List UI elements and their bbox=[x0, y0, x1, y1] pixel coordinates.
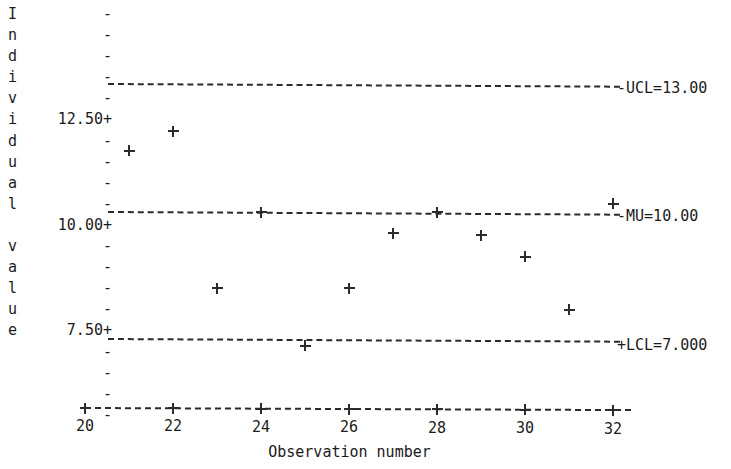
data-point bbox=[124, 145, 135, 156]
data-point bbox=[168, 126, 179, 137]
x-axis-tick bbox=[256, 403, 267, 414]
data-point bbox=[432, 207, 443, 218]
control-limit-label-mu: -MU=10.00 bbox=[617, 208, 698, 224]
x-axis-tick-label: 28 bbox=[415, 420, 459, 437]
y-axis-title-char: n bbox=[8, 25, 26, 46]
data-point bbox=[608, 198, 619, 209]
y-axis-minor-tick: - bbox=[30, 299, 112, 320]
y-axis-minor-tick: - bbox=[30, 363, 112, 384]
y-axis-major-tick: 10.00+ bbox=[30, 215, 112, 236]
x-axis-tick bbox=[168, 403, 179, 414]
data-point bbox=[388, 228, 399, 239]
y-axis-minor-tick: - bbox=[30, 25, 112, 46]
x-axis-tick-label: 32 bbox=[591, 421, 635, 438]
data-point bbox=[300, 340, 311, 351]
y-axis-minor-tick: - bbox=[30, 257, 112, 278]
y-axis-title-char: u bbox=[8, 152, 26, 173]
y-axis-title-char bbox=[8, 215, 26, 236]
y-axis-title-char: u bbox=[8, 299, 26, 320]
data-point bbox=[256, 207, 267, 218]
data-point bbox=[344, 283, 355, 294]
y-axis-minor-tick: - bbox=[30, 384, 112, 405]
y-axis-minor-tick: - bbox=[30, 173, 112, 194]
y-axis-minor-tick: - bbox=[30, 4, 112, 25]
data-point bbox=[520, 251, 531, 262]
y-axis-minor-tick: - bbox=[30, 342, 112, 363]
y-axis-title-char: i bbox=[8, 67, 26, 88]
y-axis-minor-tick: - bbox=[30, 67, 112, 88]
y-axis-minor-tick: - bbox=[30, 194, 112, 215]
y-axis-title: Individual value bbox=[8, 4, 26, 342]
y-axis-minor-tick: - bbox=[30, 236, 112, 257]
y-axis-title-char: a bbox=[8, 257, 26, 278]
control-limit-line-mu bbox=[108, 211, 620, 218]
y-axis-title-char: v bbox=[8, 88, 26, 109]
x-axis-tick-label: 22 bbox=[151, 418, 195, 435]
y-axis-minor-tick: - bbox=[30, 131, 112, 152]
control-limit-label-ucl: -UCL=13.00 bbox=[617, 80, 707, 96]
control-limit-label-lcl: +LCL=7.000 bbox=[617, 337, 707, 353]
y-axis-title-char: l bbox=[8, 278, 26, 299]
y-axis-minor-tick: - bbox=[30, 46, 112, 67]
y-axis-title-char: e bbox=[8, 320, 26, 341]
data-point bbox=[212, 283, 223, 294]
x-axis-tick bbox=[432, 404, 443, 415]
y-axis-title-char: i bbox=[8, 109, 26, 130]
y-axis-title-char: d bbox=[8, 46, 26, 67]
x-axis-tick bbox=[344, 404, 355, 415]
y-axis-title-char: d bbox=[8, 131, 26, 152]
x-axis-tick-label: 24 bbox=[239, 419, 283, 436]
y-axis-major-tick: 7.50+ bbox=[30, 320, 112, 341]
x-axis-line bbox=[85, 407, 631, 413]
y-axis-major-tick: 12.50+ bbox=[30, 109, 112, 130]
y-axis-minor-tick: - bbox=[30, 88, 112, 109]
y-axis-title-char: v bbox=[8, 236, 26, 257]
y-axis-minor-tick: - bbox=[30, 405, 112, 426]
x-axis-tick-label: 26 bbox=[327, 419, 371, 436]
x-axis-title: Observation number bbox=[0, 444, 715, 461]
y-axis-title-char: a bbox=[8, 173, 26, 194]
data-point bbox=[476, 230, 487, 241]
x-axis-tick bbox=[608, 405, 619, 416]
data-point bbox=[564, 304, 575, 315]
y-axis-tick-column: -----12.50+----10.00+----7.50+---- bbox=[30, 4, 112, 426]
y-axis-title-char: l bbox=[8, 194, 26, 215]
y-axis-minor-tick: - bbox=[30, 152, 112, 173]
x-axis-tick bbox=[520, 404, 531, 415]
y-axis-minor-tick: - bbox=[30, 278, 112, 299]
control-limit-line-lcl bbox=[108, 338, 620, 345]
individuals-control-chart: Individual value -----12.50+----10.00+--… bbox=[0, 0, 731, 469]
y-axis-title-char: I bbox=[8, 4, 26, 25]
control-limit-line-ucl bbox=[108, 83, 620, 90]
x-axis-tick-label: 30 bbox=[503, 420, 547, 437]
